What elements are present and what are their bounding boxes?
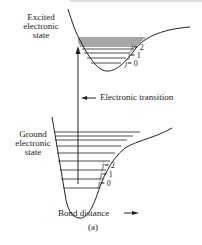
figure-caption: (a) [82, 223, 104, 232]
ground-vibrational-levels [54, 132, 140, 188]
electronic-transition-label: Electronic transition [100, 93, 173, 102]
excited-label-line3: state [19, 31, 63, 40]
transition-arrowhead [76, 46, 81, 54]
ground-state-label: Ground electronic state [11, 130, 55, 157]
ground-label-line3: state [11, 148, 55, 157]
ground-level-j0-label: j= 0 [98, 180, 111, 188]
ground-level-j1-label: j= 1 [100, 171, 113, 179]
bond-distance-arrowhead [132, 211, 139, 215]
excited-state-label: Excited electronic state [19, 13, 63, 40]
ground-level-j2-label: j= 2 [102, 162, 115, 170]
transition-pointer-arrowhead [81, 96, 87, 100]
bond-distance-label: Bond distance [58, 209, 109, 218]
excited-level-j0-label: j= 0 [125, 60, 138, 68]
